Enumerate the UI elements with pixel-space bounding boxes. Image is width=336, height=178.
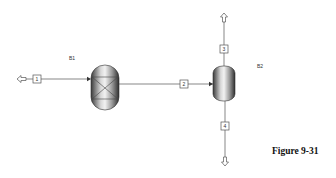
stream-4-label: 4 <box>224 123 227 129</box>
stream-4[interactable]: 4 <box>221 101 229 166</box>
flash-vessel-icon <box>213 66 235 101</box>
stream-1-label: 1 <box>36 76 39 82</box>
block-b1-label: B1 <box>69 55 75 61</box>
product-arrow-up-icon <box>221 13 228 22</box>
block-b1[interactable]: B1 <box>69 55 119 110</box>
product-arrow-down-icon <box>222 157 229 166</box>
stream-3-label: 3 <box>223 46 226 52</box>
stream-2-label: 2 <box>183 81 186 87</box>
feed-arrow-icon <box>17 76 26 83</box>
figure-caption: Figure 9-31 <box>272 146 319 156</box>
block-b2[interactable]: B2 <box>213 63 263 101</box>
block-b2-label: B2 <box>257 63 263 69</box>
reactor-vessel-icon <box>91 65 119 110</box>
stream-3[interactable]: 3 <box>220 13 228 66</box>
stream-1[interactable]: 1 <box>17 75 91 83</box>
stream-2[interactable]: 2 <box>119 80 213 88</box>
